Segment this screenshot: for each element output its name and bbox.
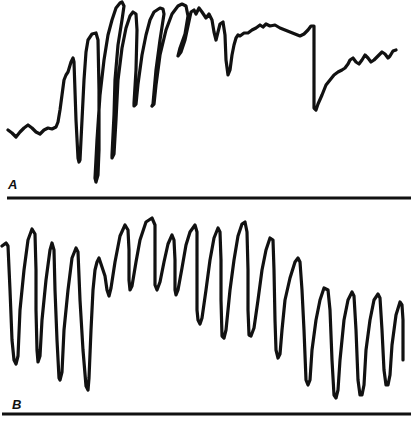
figure-canvas — [0, 0, 414, 426]
trace-b-line — [2, 218, 403, 398]
panel-label-b: B — [12, 398, 21, 411]
trace-a-line — [8, 2, 396, 182]
panel-label-a: A — [8, 178, 17, 191]
